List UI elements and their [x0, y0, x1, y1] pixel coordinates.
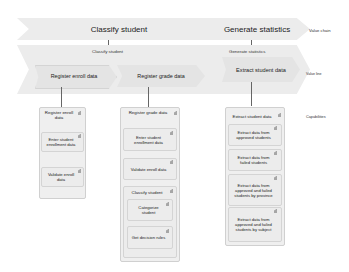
capability-icon	[278, 113, 281, 117]
capability-group-title: Extract student data	[227, 114, 277, 119]
capability-icon	[274, 209, 277, 213]
value-line-classify-student-label: Classify student	[92, 49, 123, 54]
capability-icon	[170, 131, 173, 135]
capability-icon	[274, 176, 277, 180]
capability-icon	[78, 169, 81, 173]
row-label-value-line: Value line	[306, 72, 322, 76]
value-line-register-grade-data-label: Register grade data	[124, 65, 198, 87]
capability-icon	[170, 189, 173, 193]
capability-icon	[274, 151, 277, 155]
value-line-register-enroll-data-label: Register enroll data	[40, 65, 108, 87]
value-chain-generate-statistics-label: Generate statistics	[212, 18, 302, 40]
row-label-capabilities: Capabilities	[306, 115, 326, 119]
capability-icon	[174, 111, 177, 115]
capability-icon	[170, 160, 173, 164]
connector	[61, 87, 62, 107]
capability-group-title: Register enroll data	[42, 110, 76, 120]
connector	[251, 82, 252, 106]
capability-group-title: Register grade data	[126, 110, 170, 115]
capability-item[interactable]: Enter student enrollment data	[123, 128, 177, 151]
capability-icon	[166, 229, 169, 233]
value-line-generate-statistics-label: Generate statistics	[229, 49, 265, 54]
capability-item[interactable]: Validate enroll data	[123, 158, 177, 180]
connector	[148, 87, 149, 107]
value-chain-classify-student-label: Classify student	[30, 18, 208, 40]
capability-icon	[166, 202, 169, 206]
value-line-extract-student-data-label: Extract student data	[228, 57, 294, 82]
capability-icon	[78, 111, 81, 115]
capability-icon	[274, 126, 277, 130]
capability-subgroup-title: Classify student	[125, 190, 169, 195]
row-label-value-chain: Value chain	[309, 28, 331, 33]
capability-icon	[78, 134, 81, 138]
